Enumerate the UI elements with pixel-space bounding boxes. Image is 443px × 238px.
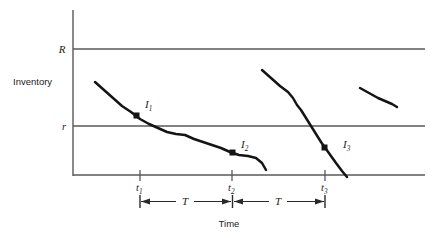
chart-svg: R r Inventory Time I1 I2 I3 t1 t2 t3 [0,0,443,238]
y-axis-label: Inventory [13,76,52,87]
inventory-time-chart: R r Inventory Time I1 I2 I3 t1 t2 t3 [0,0,443,238]
period-dimension-1: T [140,195,231,208]
marker-label-I2: I2 [240,138,249,153]
x-axis-label: Time [219,218,240,229]
marker-label-I1: I1 [144,98,152,113]
tick-label-t3: t3 [321,182,328,196]
level-label-r: r [62,121,67,132]
marker-label-I3: I3 [342,138,351,153]
tick-label-t2: t2 [228,182,235,196]
period-label-T1: T [182,195,189,207]
period-label-T2: T [275,195,282,207]
level-label-R: R [58,43,66,55]
inventory-curve-cycle-2 [262,70,347,177]
tick-label-t1: t1 [136,182,143,196]
inventory-curve-cycle-3 [360,88,397,107]
marker-dot-I2 [230,150,236,156]
period-dimension-2: T [233,195,326,208]
marker-dot-I3 [322,145,328,151]
marker-dot-I1 [134,113,140,119]
